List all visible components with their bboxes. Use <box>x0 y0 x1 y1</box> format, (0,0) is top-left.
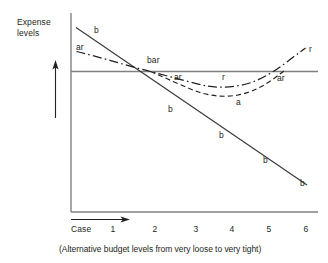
x-direction-arrow-icon <box>71 216 130 222</box>
series-ar-upper-label: ar <box>76 42 84 52</box>
x-tick-label-1: 1 <box>106 224 120 234</box>
bar-crossing-label: bar <box>147 55 160 65</box>
x-tick-label-2: 2 <box>148 224 162 234</box>
series-b-mid-label: b <box>168 104 173 114</box>
series-b-lower-label: b <box>219 130 224 140</box>
x-axis-case-label: Case <box>71 224 91 234</box>
x-tick-label-3: 3 <box>189 224 203 234</box>
series-b-upper-label: b <box>94 25 99 35</box>
x-tick-label-4: 4 <box>225 224 239 234</box>
series-r-mid-label: r <box>222 72 225 82</box>
series-ar-right-label: ar <box>277 73 285 83</box>
x-tick-label-5: 5 <box>262 224 276 234</box>
y-direction-arrow-icon <box>52 60 58 118</box>
y-axis-title: Expense levels <box>17 17 51 38</box>
series-b-end-label: b <box>300 178 305 188</box>
series-ar-line <box>77 48 306 87</box>
x-tick-label-6: 6 <box>299 224 313 234</box>
chart-plot-area <box>0 0 328 263</box>
chart-caption: (Alternative budget levels from very loo… <box>59 244 261 254</box>
series-b-line <box>76 28 307 186</box>
series-r-right-label: r <box>309 44 312 54</box>
series-ar-mid-label: ar <box>174 72 182 82</box>
series-a-mid-label: a <box>236 97 241 107</box>
chart-figure: Expense levels b ar bar ar r a ar r b b … <box>0 0 328 263</box>
series-b-lowright-label: b <box>263 155 268 165</box>
